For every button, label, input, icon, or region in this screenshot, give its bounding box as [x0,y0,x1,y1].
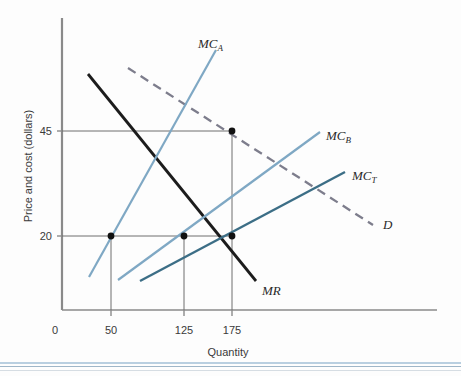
x-tick-label-0: 0 [52,324,58,336]
mc-b-curve [118,132,320,280]
y-tick-label-20: 20 [40,230,52,242]
mc-a-curve [89,50,216,277]
mc-a-label-text: MC [197,36,218,51]
footer-rule-primary [0,362,461,364]
y-axis-title: Price and cost (dollars) [22,110,34,223]
mc-t-label-subscript: T [372,175,378,185]
y-tick-label-45: 45 [40,125,52,137]
mc-a-label-subscript: A [217,43,224,53]
economics-chart: 45 20 0 50 125 175 Quantity Price and co… [0,0,461,376]
mc-t-label-text: MC [351,168,372,183]
marginal-revenue-curve [88,74,256,281]
x-axis-title: Quantity [208,346,249,358]
demand-label: D [382,217,393,232]
mr-label: MR [261,283,281,298]
figure-container: 45 20 0 50 125 175 Quantity Price and co… [0,0,461,376]
mc-b-label-text: MC [325,128,346,143]
marker-point-b [181,233,188,240]
marker-point-price [229,128,236,135]
marker-point-t [229,233,236,240]
x-tick-label-175: 175 [223,324,241,336]
marker-point-a [108,233,115,240]
mc-b-label-subscript: B [346,135,352,145]
mc-a-label: MCA [197,36,224,53]
x-tick-label-125: 125 [175,324,193,336]
x-tick-label-50: 50 [105,324,117,336]
footer-rule-secondary [0,366,461,367]
mc-t-label: MCT [351,168,378,185]
footer-rule-tertiary [0,370,461,371]
mc-b-label: MCB [325,128,352,145]
demand-curve [128,68,373,225]
